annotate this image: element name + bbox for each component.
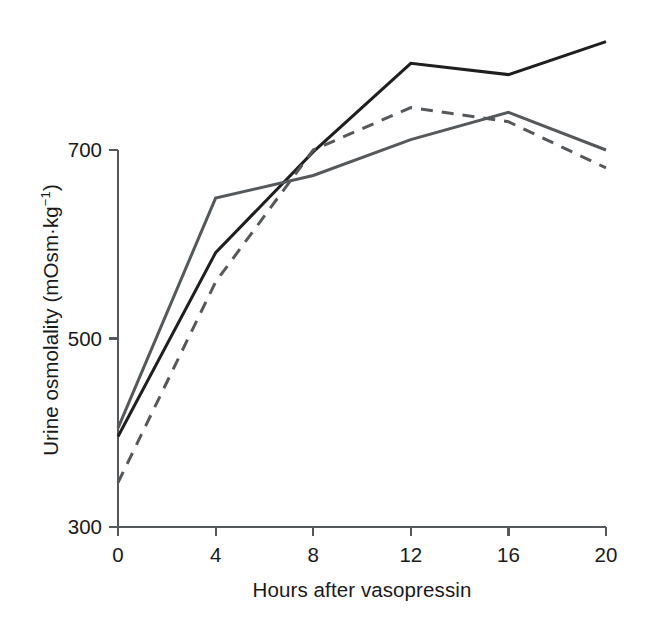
series-line-solid-black <box>118 42 606 437</box>
chart-figure: Urine osmolality (mOsm·kg−1) Hours after… <box>0 0 647 631</box>
x-tick-label-12: 12 <box>399 543 422 567</box>
x-tick-label-0: 0 <box>112 543 123 567</box>
x-tick-label-8: 8 <box>307 543 318 567</box>
series-line-dashed-gray <box>118 108 606 483</box>
y-axis-title-close: ) <box>39 184 62 191</box>
axes <box>109 150 606 536</box>
y-tick-label-700: 700 <box>40 138 102 162</box>
y-tick-label-300: 300 <box>40 515 102 539</box>
y-axis-title-mid: ·kg <box>39 206 62 235</box>
x-tick-label-20: 20 <box>595 543 618 567</box>
x-tick-label-16: 16 <box>497 543 520 567</box>
data-series-group <box>118 42 606 483</box>
y-tick-label-500: 500 <box>40 327 102 351</box>
x-tick-label-4: 4 <box>210 543 221 567</box>
y-axis-title-exponent: −1 <box>38 191 53 206</box>
y-axis-title: Urine osmolality (mOsm·kg−1) <box>39 150 63 490</box>
series-line-solid-gray <box>118 112 606 428</box>
x-axis-title: Hours after vasopressin <box>118 578 606 602</box>
